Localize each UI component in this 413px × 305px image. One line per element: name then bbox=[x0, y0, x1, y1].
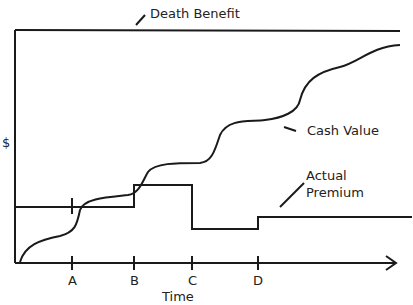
actual-premium-pointer bbox=[280, 183, 304, 207]
tick-label-a: A bbox=[68, 274, 77, 287]
cash-value-pointer bbox=[284, 127, 296, 131]
diagram-canvas bbox=[0, 0, 413, 305]
y-axis-label: $ bbox=[2, 136, 10, 149]
tick-label-b: B bbox=[130, 274, 139, 287]
actual-premium-label-line2: Premium bbox=[306, 186, 364, 199]
tick-label-d: D bbox=[253, 274, 263, 287]
x-axis-label: Time bbox=[162, 290, 194, 303]
death-benefit-pointer bbox=[136, 15, 145, 25]
death-benefit-label: Death Benefit bbox=[150, 7, 240, 20]
cash-value-label: Cash Value bbox=[307, 124, 379, 137]
tick-label-c: C bbox=[188, 274, 197, 287]
actual-premium-label-line1: Actual bbox=[306, 169, 347, 182]
death-benefit-line bbox=[15, 30, 400, 31]
